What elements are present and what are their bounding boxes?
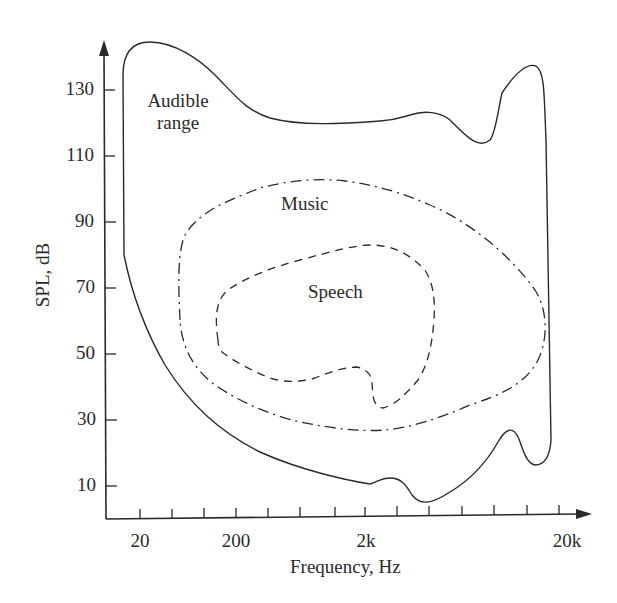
x-tick-label-20k: 20k — [537, 530, 597, 552]
x-axis-label: Frequency, Hz — [290, 556, 401, 578]
music-label: Music — [281, 193, 329, 215]
audible-label-line2: range — [138, 112, 218, 134]
y-axis — [104, 52, 106, 519]
speech-region-curve — [216, 245, 434, 408]
y-tick-label-70: 70 — [35, 276, 95, 298]
y-tick-label-110: 110 — [34, 144, 94, 166]
y-tick-label-90: 90 — [34, 210, 94, 232]
x-tick-label-20: 20 — [110, 530, 170, 552]
x-axis — [106, 514, 580, 519]
y-axis-label: SPL, dB — [32, 240, 54, 310]
speech-label: Speech — [308, 281, 363, 303]
y-axis-arrow-icon — [99, 40, 109, 56]
y-tick-label-50: 50 — [35, 342, 95, 364]
x-tick-label-200: 200 — [206, 530, 266, 552]
audible-label-line1: Audible — [138, 90, 218, 112]
x-axis-arrow-icon — [576, 509, 592, 519]
y-tick-label-30: 30 — [36, 408, 96, 430]
x-tick-label-2k: 2k — [336, 530, 396, 552]
y-tick-label-10: 10 — [36, 474, 96, 496]
y-tick-label-130: 130 — [34, 78, 94, 100]
music-region-curve — [179, 180, 545, 431]
audible-range-label: Audible range — [138, 90, 218, 134]
